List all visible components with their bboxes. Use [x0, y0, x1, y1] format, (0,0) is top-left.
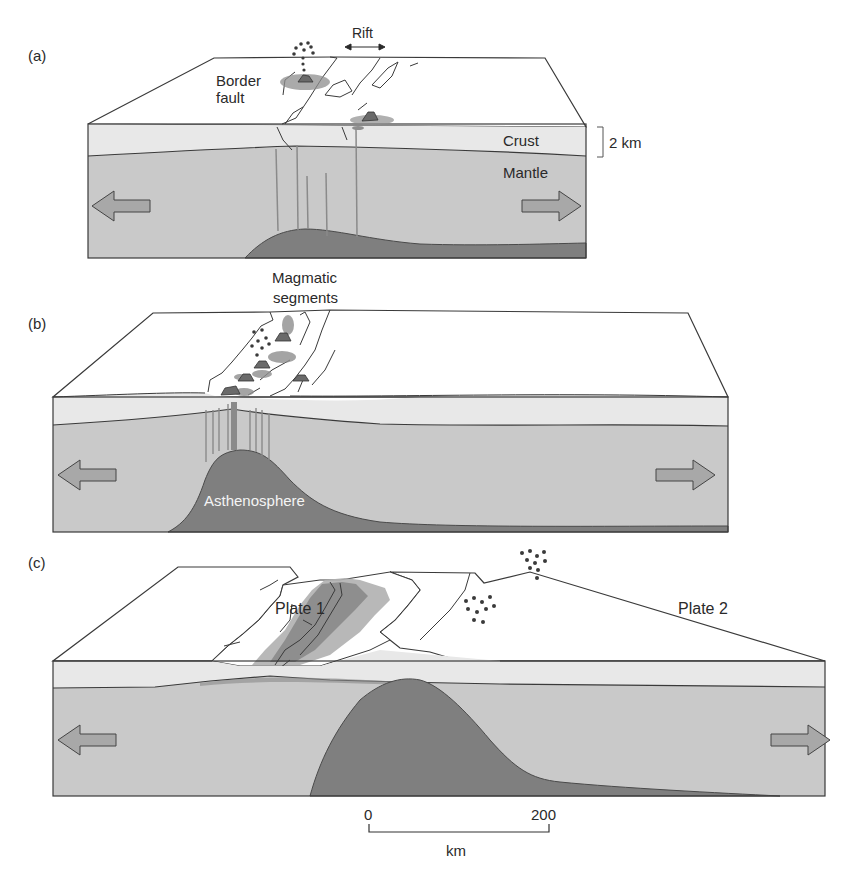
- panel-a: [88, 41, 603, 258]
- figure-canvas: (a) Rift Border fault Crust Mantle 2 km: [0, 0, 848, 881]
- rift-label: Rift: [352, 25, 373, 41]
- border-fault-label-line2: fault: [216, 89, 245, 106]
- panel-b-mantle: [53, 409, 728, 532]
- plate-2-surface: [380, 572, 825, 661]
- scale-unit-label: km: [446, 842, 466, 859]
- scale-end-label: 200: [531, 806, 556, 823]
- panel-a-label: (a): [28, 47, 46, 64]
- magmatic-segments-label-line1: Magmatic: [272, 269, 338, 286]
- panel-b-top-surface: [53, 310, 728, 397]
- magmatic-segments-label-line2: segments: [273, 289, 338, 306]
- asthenosphere-label: Asthenosphere: [204, 492, 305, 509]
- panel-b-label: (b): [28, 315, 46, 332]
- thickness-label: 2 km: [609, 134, 642, 151]
- panel-c: [53, 549, 830, 832]
- crust-label: Crust: [503, 132, 540, 149]
- plate-2-label: Plate 2: [678, 600, 728, 617]
- panel-a-top-surface: [88, 57, 586, 127]
- panel-b: [53, 310, 728, 532]
- border-fault-label-line1: Border: [216, 72, 261, 89]
- scale-start-label: 0: [364, 806, 372, 823]
- rift-width-arrow: [345, 44, 385, 50]
- plate-1-label: Plate 1: [275, 600, 325, 617]
- thickness-bracket: [597, 127, 603, 157]
- panel-c-label: (c): [28, 554, 46, 571]
- mantle-label: Mantle: [503, 164, 548, 181]
- scale-bar: [369, 824, 549, 832]
